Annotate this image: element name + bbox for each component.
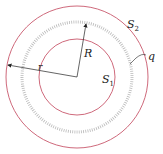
label-R: R [83, 47, 92, 60]
label-s1: S1 [102, 73, 114, 88]
label-r: r [38, 62, 43, 72]
gauss-surfaces-diagram: R r S1 S2 q [0, 0, 163, 154]
label-q: q [148, 50, 155, 63]
radius-r-arrow [8, 65, 77, 77]
label-s2: S2 [127, 18, 139, 33]
label-s2-sub: 2 [135, 25, 139, 33]
label-s1-sub: 1 [110, 80, 114, 88]
charge-leader-line [130, 54, 146, 64]
